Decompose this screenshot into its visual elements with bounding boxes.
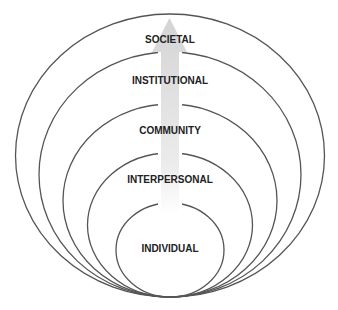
label-interpersonal: INTERPERSONAL [127, 174, 213, 185]
socio-ecological-diagram: SOCIETAL INSTITUTIONAL COMMUNITY INTERPE… [0, 0, 338, 310]
label-community: COMMUNITY [139, 125, 201, 136]
label-societal: SOCIETAL [145, 34, 195, 45]
label-individual: INDIVIDUAL [141, 243, 198, 254]
label-institutional: INSTITUTIONAL [132, 75, 208, 86]
